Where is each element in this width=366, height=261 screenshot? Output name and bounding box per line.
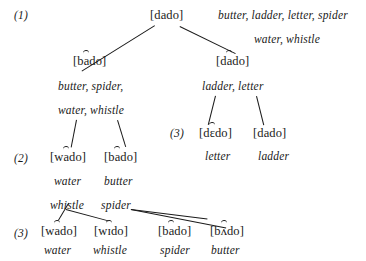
node-wado-b3-post: do] <box>60 224 77 238</box>
node-bado-b3-vowel: a <box>169 224 175 239</box>
node-bvdo-b3: [bʌdo] <box>210 224 244 239</box>
gloss-bvdo-b3: butter <box>211 244 240 256</box>
node-dado-r3-pre: [d <box>253 126 264 140</box>
node-root-pre: [d <box>150 8 161 22</box>
node-wido-b3-post: do] <box>111 224 128 238</box>
node-wido-b3: [wɪdo] <box>94 224 128 239</box>
branch-left-to-wado <box>71 120 77 148</box>
node-wado-b3-vowel: a <box>54 224 60 239</box>
node-left-l2-post: do] <box>89 54 106 68</box>
node-root: [dado] <box>150 8 183 23</box>
node-bado-b3-pre: [b <box>158 224 169 238</box>
stage-label-1: (1) <box>14 9 28 21</box>
gloss-wado-l2: water <box>54 175 81 187</box>
branch-right-to-dedo <box>208 96 216 125</box>
gloss-wado-b3: water <box>44 244 71 256</box>
node-bado-b3-post: do] <box>174 224 191 238</box>
node-bado-l2-pre: [b <box>104 150 115 164</box>
gloss-root-line2: water, whistle <box>254 33 320 45</box>
stage-label-3-bottom: (3) <box>14 227 28 239</box>
node-bado-b3: [bado] <box>158 224 191 239</box>
node-dedo: [dɛdo] <box>199 126 232 141</box>
node-wido-b3-pre: [w <box>94 224 107 238</box>
branch-right-to-dado <box>256 96 264 125</box>
gloss-dado-r3: ladder <box>258 150 289 162</box>
node-wado-l2-post: do] <box>69 150 86 164</box>
node-wido-b3-vowel: ɪ <box>107 224 111 239</box>
node-left-l2-vowel: a <box>84 54 90 69</box>
node-bado-l2-post: do] <box>120 150 137 164</box>
gloss-left-line2: water, whistle <box>58 104 124 116</box>
node-bvdo-b3-post: do] <box>227 224 244 238</box>
gloss-bado-l2: butter <box>104 175 133 187</box>
branch-left-to-bado <box>117 120 126 147</box>
gloss-dedo: letter <box>205 150 230 162</box>
stage-label-3-right: (3) <box>170 127 184 139</box>
node-wado-l2-vowel: a <box>63 150 69 165</box>
gloss-wido-b3: whistle <box>93 244 127 256</box>
node-bvdo-b3-pre: [b <box>210 224 221 238</box>
node-dedo-vowel: ɛ <box>210 126 215 141</box>
node-right-l2: [dado] <box>216 54 249 69</box>
node-left-l2-pre: [b <box>73 54 84 68</box>
stage-label-2: (2) <box>14 152 28 164</box>
node-right-l2-post: do] <box>232 54 249 68</box>
node-dado-r3: [dado] <box>253 126 286 141</box>
label-spider: spider <box>101 199 131 211</box>
gloss-bado-b3: spider <box>160 244 190 256</box>
node-wado-b3: [wado] <box>41 224 77 239</box>
node-right-l2-pre: [d <box>216 54 227 68</box>
gloss-right-line1: ladder, letter <box>202 80 264 92</box>
node-root-post: do] <box>166 8 183 22</box>
node-wado-b3-pre: [w <box>41 224 54 238</box>
node-wado-l2-pre: [w <box>50 150 63 164</box>
node-wado-l2: [wado] <box>50 150 86 165</box>
node-right-l2-vowel: a <box>227 54 233 69</box>
node-left-l2: [bado] <box>73 54 106 69</box>
node-bado-l2-vowel: a <box>115 150 121 165</box>
figure-canvas: (1) [dado] butter, ladder, letter, spide… <box>0 0 366 261</box>
gloss-left-line1: butter, spider, <box>58 80 123 92</box>
node-bado-l2: [bado] <box>104 150 137 165</box>
gloss-root-line1: butter, ladder, letter, spider <box>218 9 348 21</box>
node-dado-r3-post: do] <box>269 126 286 140</box>
node-dedo-post: do] <box>215 126 232 140</box>
node-bvdo-b3-vowel: ʌ <box>221 224 227 239</box>
node-dedo-pre: [d <box>199 126 210 140</box>
